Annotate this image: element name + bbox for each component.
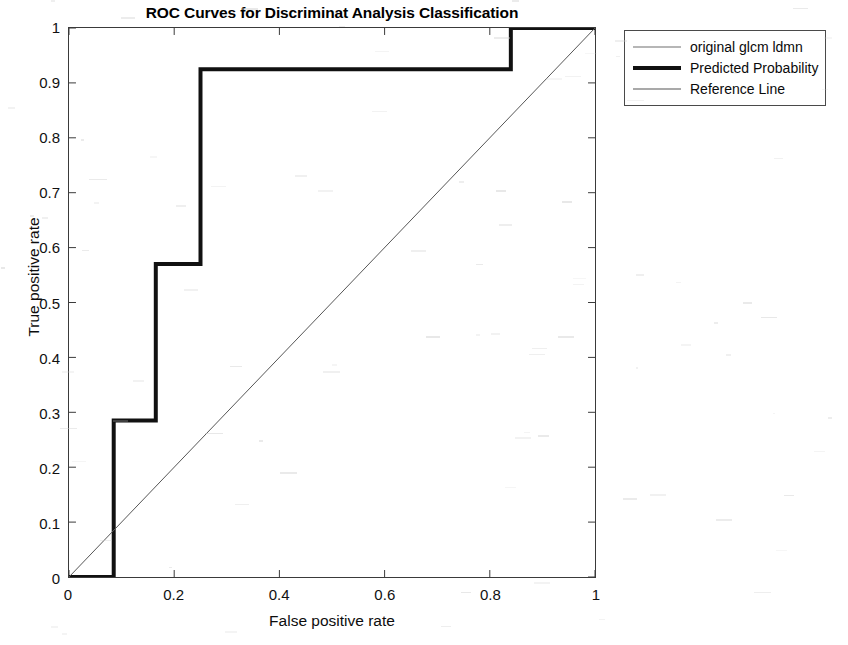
chart-title: ROC Curves for Discriminat Analysis Clas…: [68, 4, 596, 22]
y-axis-title: True positive rate: [25, 197, 43, 357]
legend-line-swatch: [631, 40, 683, 54]
x-tick-label: 1: [592, 586, 600, 603]
curve-group: [69, 28, 595, 577]
scan-artifact: [512, 0, 519, 2]
y-tick-label: 0.1: [4, 514, 60, 531]
scan-artifact: [51, 0, 55, 2]
chart-legend: original glcm ldmnPredicted ProbabilityR…: [624, 30, 826, 106]
plot-area: [68, 27, 596, 578]
scan-artifact: [776, 550, 787, 552]
x-tick-label: 0.8: [480, 586, 501, 603]
scan-artifact: [814, 451, 826, 453]
scan-artifact: [761, 317, 777, 319]
x-tick-label: 0.2: [163, 586, 184, 603]
scan-artifact: [714, 322, 718, 324]
scan-artifact: [743, 302, 752, 304]
x-tick-label: 0: [64, 586, 72, 603]
scan-artifact: [676, 282, 681, 284]
x-tick-label: 0.4: [269, 586, 290, 603]
legend-item[interactable]: Reference Line: [631, 78, 819, 99]
scan-artifact: [461, 592, 470, 594]
scan-artifact: [1, 267, 5, 269]
scan-artifact: [793, 8, 809, 10]
scan-artifact: [828, 417, 832, 419]
legend-item[interactable]: Predicted Probability: [631, 57, 819, 78]
scan-artifact: [716, 519, 731, 521]
y-tick-label: 1: [4, 19, 60, 36]
scan-artifact: [650, 494, 667, 496]
y-tick-label: 0: [4, 570, 60, 587]
scan-artifact: [623, 498, 637, 500]
roc-chart-figure: ROC Curves for Discriminat Analysis Clas…: [0, 0, 848, 645]
scan-artifact: [636, 274, 644, 276]
y-tick-label: 0.2: [4, 459, 60, 476]
x-tick-label: 0.6: [374, 586, 395, 603]
scan-artifact: [773, 413, 775, 415]
legend-line-swatch: [631, 61, 683, 75]
legend-item[interactable]: original glcm ldmn: [631, 36, 819, 57]
scan-artifact: [599, 619, 605, 621]
legend-item-label: Reference Line: [690, 82, 785, 96]
scan-artifact: [726, 354, 731, 356]
scan-artifact: [8, 107, 15, 109]
scan-artifact: [225, 631, 237, 633]
scan-artifact: [681, 344, 691, 346]
scan-artifact: [616, 56, 620, 58]
scan-artifact: [774, 158, 784, 160]
curve-reference-line: [69, 28, 595, 577]
legend-line-glyph: [633, 46, 681, 47]
y-tick-label: 0.8: [4, 129, 60, 146]
scan-artifact: [62, 633, 67, 635]
scan-artifact: [754, 592, 771, 594]
y-tick-label: 0.9: [4, 74, 60, 91]
scan-artifact: [636, 367, 638, 369]
scan-artifact: [534, 582, 551, 584]
legend-line-glyph: [633, 88, 681, 89]
x-axis-title: False positive rate: [68, 612, 596, 630]
scan-artifact: [784, 495, 794, 497]
scan-artifact: [51, 626, 58, 628]
legend-item-label: Predicted Probability: [690, 61, 818, 75]
legend-item-label: original glcm ldmn: [690, 40, 803, 54]
plot-svg: [69, 28, 595, 577]
legend-line-glyph: [633, 66, 681, 70]
legend-line-swatch: [631, 82, 683, 96]
scan-artifact: [42, 217, 47, 219]
y-tick-label: 0.3: [4, 404, 60, 421]
